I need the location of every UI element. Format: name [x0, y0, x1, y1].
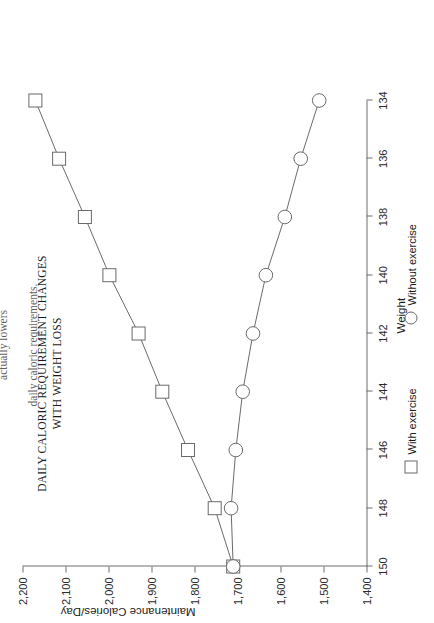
data-point-square [208, 501, 221, 514]
legend-label-with-exercise: With exercise [405, 388, 417, 454]
data-point-circle [229, 443, 243, 457]
data-point-square [132, 327, 145, 340]
legend-label-without-exercise: Without exercise [405, 224, 417, 305]
chart-figure: DAILY CALORIC REQUIREMENT CHANGES WITH W… [0, 0, 434, 623]
data-point-circle [235, 384, 249, 398]
chart-legend: With exercise Without exercise [404, 224, 417, 473]
data-point-circle [278, 210, 292, 224]
legend-item-without-exercise: Without exercise [404, 224, 417, 324]
data-point-square [102, 268, 115, 281]
square-marker-icon [404, 460, 417, 473]
data-point-square [155, 385, 168, 398]
data-point-square [28, 94, 41, 107]
legend-item-with-exercise: With exercise [404, 388, 417, 473]
data-point-square [181, 443, 194, 456]
series-line-circle [231, 100, 319, 566]
data-point-square [78, 210, 91, 223]
data-point-circle [293, 151, 307, 165]
data-point-circle [259, 268, 273, 282]
data-point-circle [224, 501, 238, 515]
data-point-circle [246, 326, 260, 340]
data-point-square [52, 152, 65, 165]
rotated-figure-wrapper: DAILY CALORIC REQUIREMENT CHANGES WITH W… [0, 0, 434, 623]
series-plot-area [0, 0, 434, 623]
data-point-circle [312, 93, 326, 107]
circle-marker-icon [404, 311, 417, 324]
